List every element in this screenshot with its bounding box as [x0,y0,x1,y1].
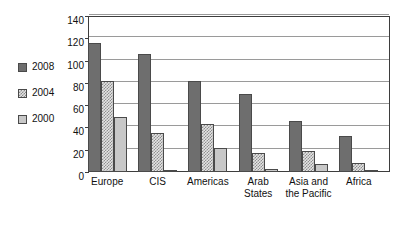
bar [164,170,177,172]
legend-label-2004: 2004 [32,88,54,98]
legend-swatch-2000-icon [18,115,27,124]
bar-chart: 2008 2004 2000 020406080100120140 Europe… [0,0,409,228]
bar [252,153,265,172]
bar-group [289,16,328,172]
x-axis-label: Europe [82,176,132,188]
bar [101,81,114,172]
x-axis-label: Africa [334,176,384,188]
bar [138,54,151,172]
legend-label-2008: 2008 [32,62,54,72]
bars-layer [88,16,390,172]
bar [114,117,127,172]
x-axis-label-line: Europe [82,176,132,188]
x-axis-label: Asia andthe Pacific [283,176,333,200]
x-axis-label-line: States [233,188,283,200]
x-axis-label-line: Arab [233,176,283,188]
x-axis-label-line: Africa [334,176,384,188]
legend-swatch-2008-icon [18,63,27,72]
legend-swatch-2004-icon [18,89,27,98]
bar [352,163,365,172]
bar [151,133,164,172]
bar-group [88,16,127,172]
bar [214,148,227,173]
y-tick-mark [85,172,89,173]
x-axis-label: Americas [183,176,233,188]
x-axis-label: ArabStates [233,176,283,200]
bar [289,121,302,172]
bar [265,169,278,172]
bar-group [188,16,227,172]
bar-group [239,16,278,172]
x-axis-labels: EuropeCISAmericasArabStatesAsia andthe P… [88,176,390,216]
bar [201,124,214,172]
legend-label-2000: 2000 [32,114,54,124]
x-axis-label-line: CIS [132,176,182,188]
x-axis-label-line: Asia and [283,176,333,188]
bar [88,43,101,172]
bar [339,136,352,172]
x-axis-label-line: the Pacific [283,188,333,200]
bar-group [138,16,177,172]
bar [302,151,315,172]
x-axis-label-line: Americas [183,176,233,188]
bar [365,170,378,172]
bar [239,94,252,172]
bar [315,164,328,172]
bar [188,81,201,172]
bar-group [339,16,378,172]
y-axis: 020406080100120140 [52,16,84,172]
x-axis-label: CIS [132,176,182,188]
gridline [89,14,389,15]
